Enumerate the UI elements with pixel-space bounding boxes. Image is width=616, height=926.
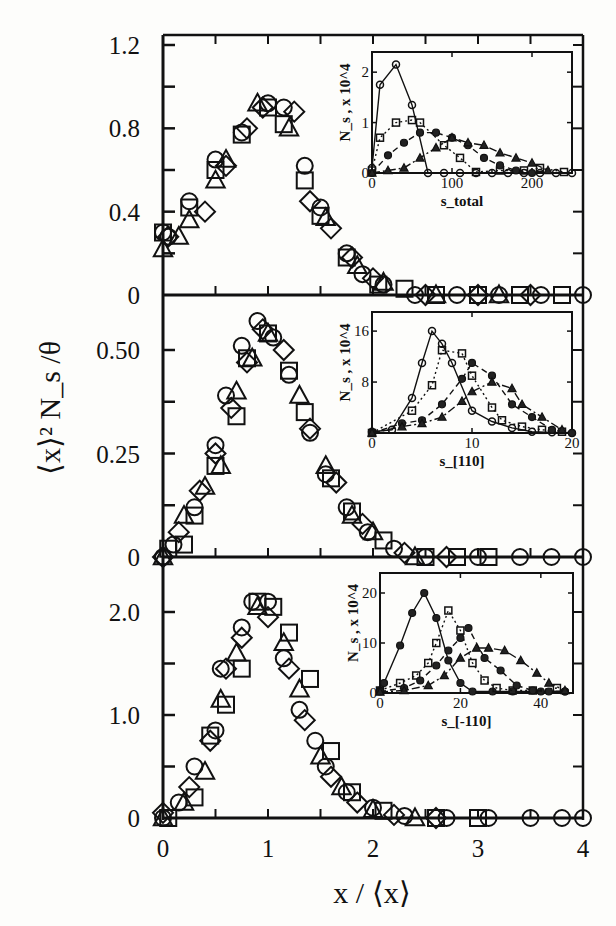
inset-filled-circle-marker <box>529 414 536 421</box>
background <box>0 0 616 926</box>
y-tick-label: 0 <box>128 805 141 832</box>
inset-y-tick-label: 10 <box>362 635 377 651</box>
inset-filled-circle-marker <box>569 430 576 437</box>
inset-filled-circle-marker <box>497 162 504 169</box>
y-tick-label: 1.2 <box>109 32 140 59</box>
inset-y-tick-label: 2 <box>362 64 370 80</box>
inset-filled-circle-marker <box>445 657 452 664</box>
inset-x-tick-label: 200 <box>521 175 544 191</box>
inset-x-tick-label: 100 <box>441 175 464 191</box>
inset-filled-circle-marker <box>513 167 520 174</box>
inset-x-tick-label: 10 <box>465 435 480 451</box>
inset-filled-circle-marker <box>409 610 416 617</box>
inset-y-label: N_s , x 10^4 <box>337 323 353 401</box>
inset-x-tick-label: 40 <box>533 695 548 711</box>
inset-x-tick-label: 20 <box>453 695 468 711</box>
x-tick-2: 2 <box>367 835 380 862</box>
inset-filled-circle-marker <box>417 129 424 136</box>
inset-x-label: s_[110] <box>440 453 485 469</box>
inset-filled-circle-marker <box>417 677 424 684</box>
inset-x-tick-label: 0 <box>368 435 376 451</box>
x-tick-0: 0 <box>157 835 170 862</box>
y-tick-label: 0.25 <box>96 441 140 468</box>
inset-filled-circle-marker <box>481 154 488 161</box>
inset-filled-circle-marker <box>457 680 464 687</box>
inset-filled-circle-marker <box>469 688 476 695</box>
inset-filled-circle-marker <box>469 359 476 366</box>
y-tick-label: 0 <box>128 544 141 571</box>
inset-filled-circle-marker <box>381 680 388 687</box>
inset-filled-circle-marker <box>545 688 552 695</box>
inset-filled-circle-marker <box>433 129 440 136</box>
inset-filled-circle-marker <box>385 152 392 159</box>
inset-filled-circle-marker <box>433 615 440 622</box>
inset-filled-circle-marker <box>529 170 536 177</box>
inset-filled-circle-marker <box>459 375 466 382</box>
inset-filled-circle-marker <box>457 635 464 642</box>
inset-y-tick-label: 20 <box>362 585 377 601</box>
inset-x-label: s_[-110] <box>442 713 492 729</box>
y-tick-label: 1.0 <box>109 702 140 729</box>
inset-x-label: s_total <box>441 193 484 209</box>
inset-filled-circle-marker <box>401 139 408 146</box>
inset-filled-circle-marker <box>445 647 452 654</box>
inset-filled-circle-marker <box>439 401 446 408</box>
x-axis-title: x / ⟨x⟩ <box>333 876 410 909</box>
inset-x-tick-label: 20 <box>565 435 580 451</box>
x-tick-1: 1 <box>262 835 275 862</box>
inset-filled-circle-marker <box>529 687 536 694</box>
x-tick-4: 4 <box>577 835 590 862</box>
inset-filled-circle-marker <box>397 642 404 649</box>
inset-filled-circle-marker <box>549 426 556 433</box>
inset-filled-circle-marker <box>497 667 504 674</box>
y-tick-label: 0.50 <box>96 337 140 364</box>
y-tick-label: 2.0 <box>109 599 140 626</box>
y-tick-label: 0 <box>128 282 141 309</box>
inset-x-tick-label: 0 <box>376 695 384 711</box>
inset-y-tick-label: 8 <box>362 374 370 390</box>
inset-y-label: N_s , x 10^4 <box>337 63 353 141</box>
inset-filled-circle-marker <box>465 625 472 632</box>
y-axis-title: ⟨x⟩² N_s /θ <box>33 341 66 475</box>
x-tick-3: 3 <box>472 835 485 862</box>
y-tick-label: 0.8 <box>109 115 140 142</box>
figure-canvas: 00.40.81.20100200012s_totalN_s , x 10^4 … <box>0 0 616 926</box>
inset-filled-circle-marker <box>421 590 428 597</box>
inset-y-tick-label: 16 <box>354 323 370 339</box>
inset-filled-circle-marker <box>509 401 516 408</box>
inset-x-tick-label: 0 <box>368 175 376 191</box>
inset-filled-circle-marker <box>481 655 488 662</box>
inset-filled-circle-marker <box>433 662 440 669</box>
inset-y-tick-label: 1 <box>362 115 370 131</box>
inset-filled-circle-marker <box>513 682 520 689</box>
inset-y-label: N_s , x 10^4 <box>345 584 361 662</box>
y-tick-label: 0.4 <box>109 199 141 226</box>
